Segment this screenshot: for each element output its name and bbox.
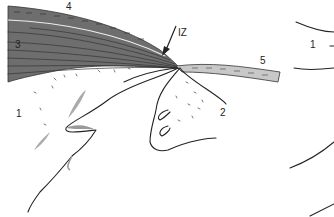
iz-arrow — [162, 26, 176, 56]
label-5: 5 — [260, 55, 266, 66]
label-4: 4 — [66, 1, 72, 12]
stipple-blob — [66, 125, 96, 130]
layer-3-band — [8, 6, 180, 82]
layer-5-band — [176, 64, 280, 82]
stipple-streak-1 — [68, 90, 86, 118]
label-1-left: 1 — [16, 108, 22, 119]
region-1-boundary — [28, 68, 178, 212]
cavity-1 — [158, 110, 170, 120]
tissue-ticks — [34, 68, 203, 125]
diagram: 4 3 IZ 5 2 1 1 — [0, 0, 334, 217]
label-3: 3 — [15, 39, 21, 50]
cavity-2 — [160, 126, 170, 136]
label-2: 2 — [220, 107, 226, 118]
stipple-streak-2 — [34, 132, 50, 150]
label-1-right: 1 — [310, 39, 316, 50]
region-2-outline — [150, 68, 226, 151]
right-panel-lines — [290, 22, 334, 216]
label-iz: IZ — [178, 27, 187, 38]
